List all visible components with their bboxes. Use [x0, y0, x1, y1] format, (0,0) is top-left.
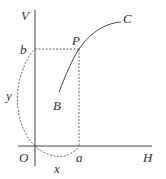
label-o: O: [19, 150, 29, 165]
label-x: x: [53, 161, 60, 176]
label-b-small: b: [20, 42, 27, 57]
label-p: P: [71, 33, 80, 48]
label-a: a: [76, 150, 83, 165]
label-h: H: [142, 150, 153, 165]
label-c: C: [123, 11, 132, 26]
curve-bc: [59, 22, 121, 92]
dashed-arc-x: [35, 146, 79, 157]
label-b-capital: B: [53, 98, 61, 113]
label-y: y: [4, 88, 12, 103]
dashed-arc-y: [17, 49, 35, 146]
diagram-canvas: V C P b y B O a H x: [0, 0, 166, 179]
label-v: V: [21, 8, 31, 23]
